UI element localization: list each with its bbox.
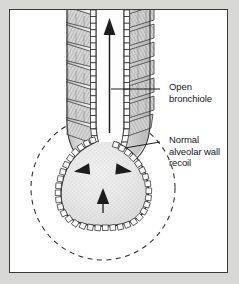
figure-root: Open bronchiole Normal alveolar wall rec…: [0, 0, 239, 284]
figure-frame: Open bronchiole Normal alveolar wall rec…: [9, 9, 228, 273]
label-open-bronchiole: Open bronchiole: [169, 81, 212, 104]
label-alveolar-recoil-line3: recoil: [169, 157, 220, 169]
label-normal-alveolar-wall-recoil: Normal alveolar wall recoil: [169, 134, 220, 169]
label-open-bronchiole-line2: bronchiole: [169, 93, 212, 105]
label-alveolar-recoil-line1: Normal: [169, 134, 220, 146]
label-open-bronchiole-line1: Open: [169, 81, 212, 93]
label-alveolar-recoil-line2: alveolar wall: [169, 146, 220, 158]
